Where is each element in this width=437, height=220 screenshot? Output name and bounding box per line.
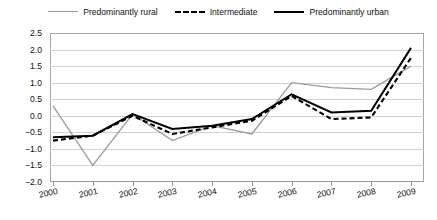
x-axis-tick (133, 182, 134, 186)
x-axis-tick-label: 2002 (118, 187, 139, 200)
x-axis-tick-label: 2003 (157, 187, 178, 200)
x-axis-tick (93, 182, 94, 186)
x-axis-tick-label: 2005 (237, 187, 258, 200)
x-axis-tick (411, 182, 412, 186)
x-axis-tick (53, 182, 54, 186)
x-axis-tick (292, 182, 293, 186)
line-chart: Predominantly rural Intermediate Predomi… (0, 0, 437, 220)
x-axis-tick-label: 2000 (38, 187, 59, 200)
x-axis-tick-label: 2004 (197, 187, 218, 200)
x-axis-tick-label: 2009 (396, 187, 417, 200)
x-axis-tick-label: 2007 (316, 187, 337, 200)
x-axis-tick-label: 2001 (78, 187, 99, 200)
x-axis-tick (252, 182, 253, 186)
x-axis-tick-label: 2006 (277, 187, 298, 200)
x-axis-labels: 2000200120022003200420052006200720082009 (0, 0, 437, 220)
x-axis-tick-label: 2008 (356, 187, 377, 200)
